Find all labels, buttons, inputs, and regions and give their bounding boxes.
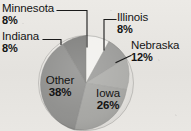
pie-label-nebraska: Nebraska 12% — [131, 40, 179, 63]
pie-label-nebraska-value: 12% — [131, 52, 179, 63]
pie-label-iowa-value: 26% — [92, 100, 124, 112]
pie-label-indiana-value: 8% — [2, 43, 39, 54]
pie-label-minnesota: Minnesota 8% — [2, 3, 54, 26]
pie-label-illinois: Illinois 8% — [117, 12, 148, 35]
pie-label-other-value: 38% — [41, 87, 79, 99]
pie-label-other: Other 38% — [41, 75, 79, 99]
leader-line-indiana — [43, 40, 61, 45]
pie-chart-figure: Minnesota 8% Indiana 8% Illinois 8% Nebr… — [0, 0, 191, 131]
pie-label-minnesota-value: 8% — [2, 15, 54, 26]
pie-label-indiana: Indiana 8% — [2, 31, 39, 54]
pie-label-illinois-value: 8% — [117, 24, 148, 35]
pie-label-iowa: Iowa 26% — [92, 88, 124, 112]
